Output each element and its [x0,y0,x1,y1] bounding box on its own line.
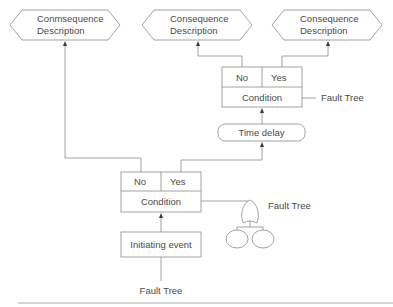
event-tree-diagram: Conmsequence Description Consequence Des… [0,0,393,307]
top-condition-box: No Yes Condition [222,67,302,107]
lower-condition-label: Condition [141,196,181,207]
consequence-1-line1: Conmsequence [37,13,104,24]
lower-condition-no: No [134,176,146,187]
connector-top-yes [282,46,328,67]
arrowhead-icon [326,41,330,46]
and-gate-icon [226,200,274,248]
time-delay-label: Time delay [238,127,284,138]
connector-lower-yes [181,147,262,172]
arrowhead-icon [260,108,264,113]
lower-condition-yes: Yes [170,176,186,187]
consequence-1: Conmsequence Description [10,10,120,40]
initiating-event-label: Initiating event [130,239,192,250]
time-delay-box: Time delay [218,124,305,141]
consequence-2-line2: Description [170,25,218,36]
consequence-3-line2: Description [300,25,348,36]
arrowhead-icon [159,213,163,218]
connector-top-no [198,46,242,67]
basic-event-circle-icon [252,230,274,248]
consequence-2-line1: Consequence [170,13,229,24]
top-condition-yes: Yes [271,72,287,83]
lower-fault-tree-label: Fault Tree [268,200,311,211]
bottom-fault-tree-label: Fault Tree [140,285,183,296]
top-fault-tree-label: Fault Tree [321,92,364,103]
divider-line [18,302,393,304]
consequence-3-line1: Consequence [300,13,359,24]
arrowhead-icon [196,41,200,46]
basic-event-circle-icon [226,230,248,248]
consequence-2: Consequence Description [142,10,252,40]
consequence-1-line2: Description [37,25,85,36]
lower-condition-box: No Yes Condition [121,172,201,212]
consequence-3: Consequence Description [272,10,382,40]
top-condition-no: No [236,72,248,83]
initiating-event-box: Initiating event [121,232,201,257]
arrowhead-icon [63,41,67,46]
top-condition-label: Condition [242,92,282,103]
connector-lower-no [65,46,141,172]
arrowhead-icon [260,142,264,147]
